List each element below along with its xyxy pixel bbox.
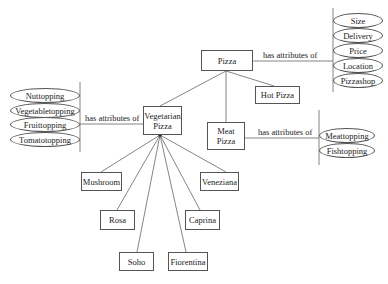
vegetarian-pizza-node: Vegetarian Pizza — [143, 106, 182, 135]
soho-label: Soho — [128, 257, 145, 267]
attribute-location: Location — [333, 58, 383, 73]
attribute-label: Fruittopping — [24, 120, 67, 130]
mushroom-label: Mushroom — [83, 177, 120, 187]
caprina-label: Caprina — [189, 215, 216, 225]
meat-pizza-node: Meat Pizza — [207, 122, 245, 150]
attribute-label: Pizzashop — [341, 76, 375, 86]
veneziana-label: Veneziana — [202, 177, 237, 187]
mushroom-node: Mushroom — [81, 172, 122, 191]
attribute-fishtopping: Fishtopping — [319, 143, 375, 158]
vegetarian-pizza-label-2: Pizza — [153, 121, 171, 131]
attribute-label: Fishtopping — [327, 146, 368, 156]
vegetarian-pizza-label-1: Vegetarian — [144, 111, 180, 121]
attribute-label: Location — [343, 61, 373, 71]
attribute-price: Price — [333, 43, 383, 58]
attribute-fruittopping: Fruittopping — [10, 117, 80, 132]
attribute-label: Meattopping — [325, 131, 368, 141]
veneziana-node: Veneziana — [200, 172, 239, 191]
rosa-label: Rosa — [109, 215, 126, 225]
soho-node: Soho — [119, 252, 154, 271]
attribute-tomatotopping: Tomatotopping — [10, 132, 80, 147]
attribute-label: Price — [349, 46, 366, 56]
attribute-nuttopping: Nuttopping — [10, 88, 80, 103]
attribute-label: Size — [351, 16, 366, 26]
meat-pizza-label-1: Meat — [217, 126, 234, 136]
hot-pizza-node: Hot Pizza — [255, 86, 300, 104]
vegetarian-relation-label: has attributes of — [85, 113, 139, 123]
attribute-label: Vegetabletopping — [15, 106, 74, 116]
fiorentina-node: Fiorentina — [168, 252, 208, 271]
pizza-relation-label: has attributes of — [263, 50, 317, 60]
attribute-vegetabletopping: Vegetabletopping — [10, 103, 80, 118]
attribute-delivery: Delivery — [333, 28, 383, 43]
meat-pizza-label-2: Pizza — [217, 136, 235, 146]
pizza-label: Pizza — [218, 56, 236, 66]
caprina-node: Caprina — [185, 210, 220, 230]
attribute-label: Nuttopping — [26, 91, 65, 101]
meat-relation-label: has attributes of — [258, 127, 312, 137]
rosa-node: Rosa — [100, 210, 135, 230]
attribute-label: Tomatotopping — [19, 135, 71, 145]
attribute-meattopping: Meattopping — [319, 128, 375, 143]
hot-pizza-label: Hot Pizza — [261, 90, 294, 100]
fiorentina-label: Fiorentina — [171, 257, 206, 267]
attribute-label: Delivery — [343, 31, 373, 41]
attribute-size: Size — [333, 13, 383, 28]
attribute-pizzashop: Pizzashop — [333, 73, 383, 88]
pizza-node: Pizza — [201, 50, 253, 71]
